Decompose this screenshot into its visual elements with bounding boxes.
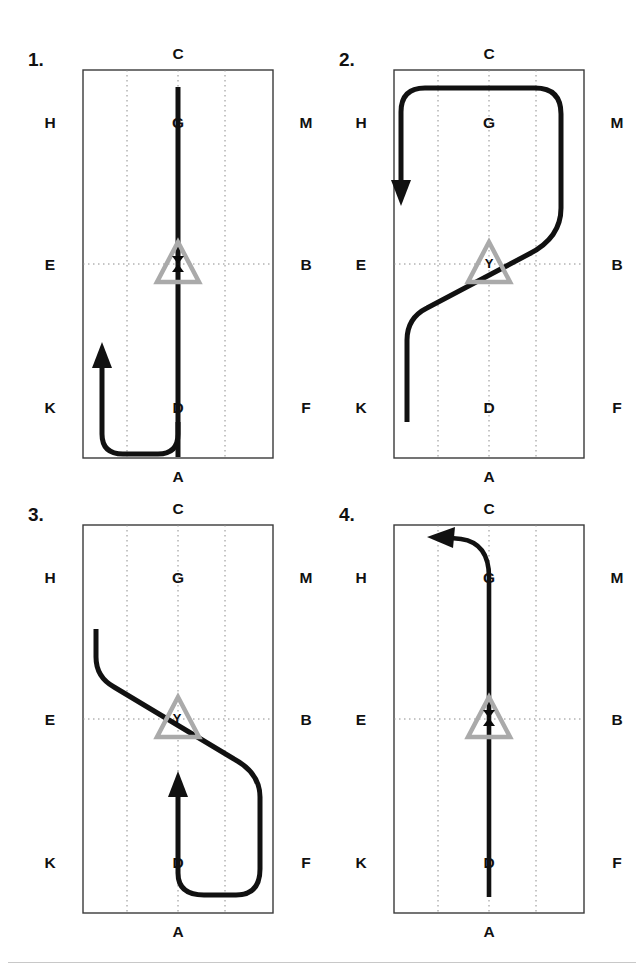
- node-label-C: C: [483, 500, 494, 517]
- node-label-K: K: [44, 399, 56, 416]
- node-label-H: H: [44, 114, 55, 131]
- node-label-E: E: [45, 256, 55, 273]
- node-label-M: M: [611, 569, 624, 586]
- panel-4: 4. C A H E K M B F G D: [329, 497, 639, 947]
- node-label-M: M: [300, 114, 313, 131]
- panel-3: 3. Y C A H E K M B F G D: [18, 497, 328, 947]
- marker-letter: Y: [485, 256, 494, 271]
- node-label-E: E: [45, 711, 55, 728]
- node-label-C: C: [172, 45, 183, 62]
- node-label-F: F: [612, 854, 621, 871]
- node-label-E: E: [356, 711, 366, 728]
- node-label-H: H: [355, 114, 366, 131]
- node-label-H: H: [44, 569, 55, 586]
- panel-1-diagram: C A H E K M B F G D: [18, 42, 328, 492]
- node-label-B: B: [300, 711, 311, 728]
- node-label-A: A: [172, 468, 183, 485]
- node-label-G: G: [172, 569, 184, 586]
- footer-divider: [8, 962, 636, 963]
- node-label-D: D: [172, 399, 183, 416]
- node-label-A: A: [172, 923, 183, 940]
- panel-3-diagram: Y C A H E K M B F G D: [18, 497, 328, 947]
- node-label-H: H: [355, 569, 366, 586]
- node-label-D: D: [483, 399, 494, 416]
- node-label-K: K: [355, 399, 367, 416]
- node-label-G: G: [483, 569, 495, 586]
- node-label-K: K: [355, 854, 367, 871]
- node-label-A: A: [483, 923, 494, 940]
- panel-1: 1. C A H E K M B F: [18, 42, 328, 492]
- node-label-D: D: [172, 854, 183, 871]
- figure-sheet: 1. C A H E K M B F: [0, 0, 644, 973]
- node-label-B: B: [611, 711, 622, 728]
- node-label-F: F: [301, 399, 310, 416]
- node-label-A: A: [483, 468, 494, 485]
- node-label-G: G: [172, 114, 184, 131]
- marker-letter: Y: [173, 711, 182, 726]
- node-label-G: G: [483, 114, 495, 131]
- node-label-K: K: [44, 854, 56, 871]
- panel-2: 2. Y C A H E K M B F G D: [329, 42, 639, 492]
- node-label-M: M: [300, 569, 313, 586]
- node-label-D: D: [483, 854, 494, 871]
- panel-4-diagram: C A H E K M B F G D: [329, 497, 639, 947]
- node-label-C: C: [483, 45, 494, 62]
- panel-2-diagram: Y C A H E K M B F G D: [329, 42, 639, 492]
- node-label-E: E: [356, 256, 366, 273]
- node-label-B: B: [611, 256, 622, 273]
- node-label-F: F: [612, 399, 621, 416]
- node-label-B: B: [300, 256, 311, 273]
- node-label-C: C: [172, 500, 183, 517]
- node-label-F: F: [301, 854, 310, 871]
- node-label-M: M: [611, 114, 624, 131]
